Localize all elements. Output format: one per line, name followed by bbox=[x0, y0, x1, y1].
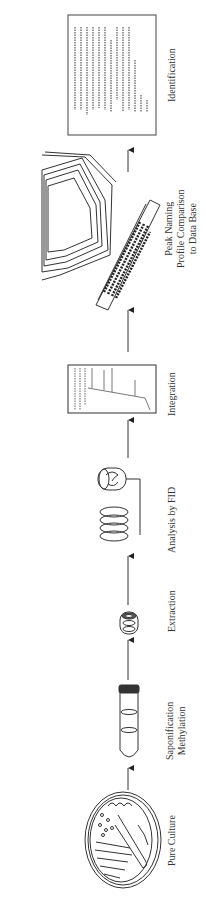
diagram-graphics bbox=[0, 0, 206, 908]
step-label-pure-culture: Pure Culture bbox=[166, 815, 178, 866]
label-line: Methylation bbox=[176, 702, 188, 760]
step-label-saponification-methylation: Saponification Methylation bbox=[164, 702, 188, 760]
petri-dish-icon bbox=[85, 792, 161, 888]
label-line: Profile Comparison bbox=[175, 189, 187, 268]
computer-terminal-icon bbox=[42, 152, 160, 310]
vial-icon bbox=[120, 612, 138, 634]
gc-column-fid-icon bbox=[98, 468, 140, 541]
label-line: Analysis by FID bbox=[166, 487, 178, 553]
step-label-extraction: Extraction bbox=[166, 590, 178, 632]
label-line: Peak Naming bbox=[163, 189, 175, 268]
fame-analysis-workflow-diagram: Identification Peak Naming Profile Compa… bbox=[0, 0, 206, 908]
label-line: Identification bbox=[166, 48, 178, 102]
label-line: Pure Culture bbox=[166, 815, 178, 866]
step-label-integration: Integration bbox=[166, 372, 178, 416]
label-line: Integration bbox=[166, 372, 178, 416]
label-line: Saponification bbox=[164, 702, 176, 760]
label-line: to Data Base bbox=[187, 189, 199, 268]
label-line: Extraction bbox=[166, 590, 178, 632]
report-printout-icon bbox=[68, 15, 156, 135]
test-tube-icon bbox=[119, 685, 139, 757]
step-label-identification: Identification bbox=[166, 48, 178, 102]
chromatogram-printout-icon bbox=[68, 365, 156, 413]
step-label-peak-naming: Peak Naming Profile Comparison to Data B… bbox=[163, 189, 199, 268]
step-label-analysis-by-fid: Analysis by FID bbox=[166, 487, 178, 553]
